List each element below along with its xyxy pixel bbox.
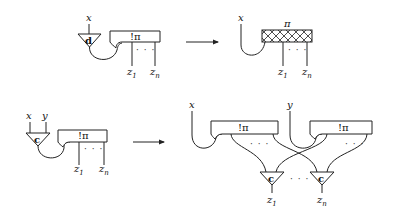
box-label-left: !π [238,122,249,133]
wire-right-to-c1 [276,134,327,172]
output-label-zn: zn [316,194,327,208]
output-label-zn: zn [98,163,109,177]
ellipsis: · · · [84,144,103,154]
node-label-c: c [34,134,40,145]
input-label-y: y [41,110,48,121]
node-label-c1: c [268,173,274,184]
box-label: !π [130,31,141,42]
input-label-x: x [86,12,92,23]
dereliction-lhs: x d !π · · · z1 zn [78,12,160,80]
output-label-z1: z1 [126,66,137,80]
output-label-zn: zn [301,66,312,80]
input-label-x: x [189,99,195,110]
cut-wire [89,43,122,59]
ellipsis-nodes: · · · [290,174,309,184]
wire-x [241,24,265,55]
wire-left-to-cn [273,134,317,172]
dereliction-rhs: x π · · · z1 zn [238,12,312,80]
proof-net-rewrite-diagram: x d !π · · · z1 zn x π · · · z1 zn x y c [0,0,394,213]
ellipsis-left: · · · [250,139,269,149]
output-label-z1: z1 [277,66,288,80]
input-label-y: y [286,99,293,110]
input-label-x: x [26,110,32,121]
hatched-box [262,30,312,42]
output-label-z1: z1 [266,194,277,208]
ellipsis: · · · [136,45,155,55]
box-label-right: !π [338,122,349,133]
box-label: !π [78,130,89,141]
input-label-x: x [238,12,244,23]
output-label-zn: zn [149,66,160,80]
ellipsis: · · · [288,45,307,55]
contraction-rhs: x !π · · · y !π · · · c c · · · z1 zn [189,99,372,208]
contraction-lhs: x y c !π · · · z1 zn [26,110,109,177]
node-label-cn: c [318,173,324,184]
node-label-d: d [85,35,92,46]
box-label: π [283,18,291,29]
output-label-z1: z1 [73,163,84,177]
